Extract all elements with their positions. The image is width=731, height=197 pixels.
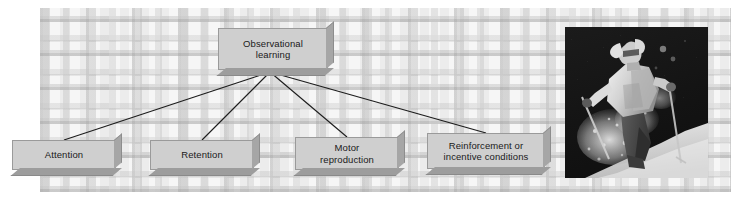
skier-photo-artwork — [565, 27, 708, 178]
node-reinforcement-incentive-conditions-label: Reinforcement or incentive conditions — [440, 140, 533, 163]
node-retention-label: Retention — [177, 149, 227, 161]
figure-container: Observational learning Attention Retenti… — [0, 0, 731, 197]
node-retention[interactable]: Retention — [150, 140, 254, 170]
node-observational-learning-label: Observational learning — [239, 38, 307, 61]
node-attention-label: Attention — [41, 149, 87, 161]
skier-photo — [565, 27, 708, 178]
node-reinforcement-incentive-conditions[interactable]: Reinforcement or incentive conditions — [427, 133, 545, 169]
node-observational-learning[interactable]: Observational learning — [218, 28, 328, 70]
node-attention[interactable]: Attention — [12, 140, 116, 170]
node-motor-reproduction[interactable]: Motor reproduction — [295, 137, 399, 170]
node-motor-reproduction-label: Motor reproduction — [316, 142, 378, 165]
